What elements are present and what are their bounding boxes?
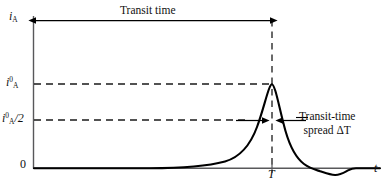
x-axis-label: t [374, 162, 377, 174]
axis-lines [33, 16, 380, 169]
x-tick-transit-time-label: T [268, 168, 275, 180]
origin-label: 0 [20, 158, 26, 170]
spread-annotation-line1: Transit-time [299, 110, 355, 124]
y-axis-label: iA [9, 10, 18, 23]
y-tick-half-peak-label: i0A/2 [2, 112, 24, 125]
transit-time-spread-annotation: Transit-time spread ΔT [299, 110, 355, 137]
figure-canvas [0, 0, 386, 185]
transit-time-annotation: Transit time [120, 5, 175, 17]
spread-annotation-line2: spread ΔT [299, 124, 355, 138]
transit-time-pulse-figure: iA i0A i0A/2 0 t T Transit time Transit-… [0, 0, 386, 185]
y-tick-peak-label: i0A [6, 76, 18, 89]
